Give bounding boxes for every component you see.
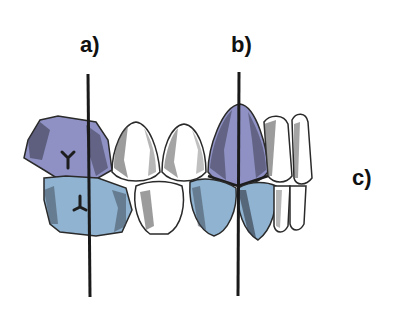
upper-premolar-white-1 xyxy=(112,122,160,181)
teeth-illustration xyxy=(0,0,408,312)
side-teeth-lower xyxy=(274,186,306,232)
side-teeth-upper xyxy=(264,114,312,184)
axis-line-b xyxy=(238,72,239,296)
lower-premolar-blue-1 xyxy=(190,179,236,236)
axis-line-a xyxy=(88,74,90,297)
dental-occlusion-diagram: a) b) c) xyxy=(0,0,408,312)
lower-premolar-blue-2 xyxy=(238,183,277,241)
upper-molar xyxy=(24,116,112,180)
lower-premolar-white xyxy=(135,182,184,235)
upper-premolar-white-2 xyxy=(162,124,206,181)
